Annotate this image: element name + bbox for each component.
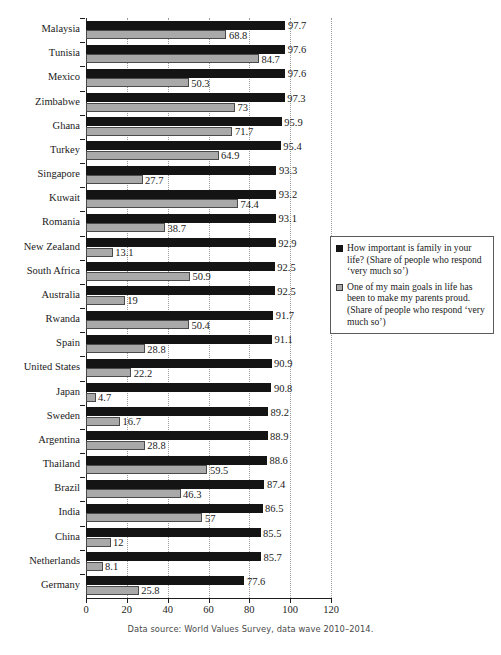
bar-series-0 [86,407,268,416]
category-tick [80,42,85,43]
category-tick [80,308,85,309]
category-tick [80,356,85,357]
bar-value-label: 73 [238,103,249,112]
x-tick-120 [331,598,332,603]
bar-series-0 [86,93,285,102]
x-tick-label-0: 0 [83,604,88,615]
bar-value-label: 88.9 [270,432,288,441]
category-label: Ghana [0,120,80,131]
bar-value-label: 87.4 [267,480,285,489]
bar-value-label: 50.3 [191,79,209,88]
bar-value-label: 85.7 [263,553,281,562]
chart-row: Tunisia97.684.7 [0,42,501,66]
category-label: Argentina [0,434,80,445]
bar-value-label: 92.5 [277,287,295,296]
category-label: Germany [0,579,80,590]
category-tick [80,163,85,164]
bar-series-0 [86,166,276,175]
chart-row: Turkey95.464.9 [0,139,501,163]
chart-row: India86.557 [0,501,501,525]
bar-value-label: 4.7 [98,393,111,402]
bar-value-label: 85.5 [263,529,281,538]
chart-row: United States90.922.2 [0,356,501,380]
bar-series-1 [86,175,143,184]
category-label: India [0,506,80,517]
category-label: Turkey [0,144,80,155]
legend-label-family: How important is family in your life? (S… [347,242,487,277]
bar-value-label: 97.6 [288,69,306,78]
bar-value-label: 22.2 [134,369,152,378]
category-label: China [0,531,80,542]
x-tick-label-80: 80 [244,604,255,615]
bar-value-label: 28.8 [147,441,165,450]
bar-value-label: 97.6 [288,45,306,54]
bar-value-label: 91.7 [276,311,294,320]
category-tick [80,550,85,551]
bar-value-label: 25.8 [141,586,159,595]
bar-series-0 [86,45,285,54]
x-tick-label-100: 100 [282,604,298,615]
chart-row: Mexico97.650.3 [0,66,501,90]
bar-series-0 [86,576,244,585]
x-tick-60 [209,598,210,603]
bar-value-label: 12 [113,538,124,547]
bar-series-0 [86,431,268,440]
bar-series-1 [86,296,125,305]
bar-chart-figure: Malaysia97.768.8Tunisia97.684.7Mexico97.… [0,0,501,655]
category-tick [80,332,85,333]
category-label: Rwanda [0,313,80,324]
chart-row: Thailand88.659.5 [0,453,501,477]
bar-value-label: 97.3 [287,94,305,103]
chart-row: Romania93.138.7 [0,211,501,235]
category-tick [80,405,85,406]
bar-series-0 [86,141,281,150]
category-tick [80,429,85,430]
legend-entry-parents-proud: One of my main goals in life has been to… [336,281,487,327]
bar-series-1 [86,417,120,426]
category-label: Tunisia [0,47,80,58]
bar-value-label: 77.6 [247,577,265,586]
category-label: Mexico [0,71,80,82]
bar-series-1 [86,465,207,474]
chart-row: Malaysia97.768.8 [0,18,501,42]
bar-value-label: 46.3 [183,490,201,499]
bar-value-label: 38.7 [168,224,186,233]
bar-series-0 [86,504,263,513]
category-label: Malaysia [0,23,80,34]
chart-row: Japan90.84.7 [0,381,501,405]
category-label: Kuwait [0,192,80,203]
category-label: Netherlands [0,555,80,566]
x-tick-label-40: 40 [162,604,173,615]
category-tick [80,187,85,188]
bar-value-label: 68.8 [229,31,247,40]
bar-value-label: 86.5 [265,504,283,513]
bar-value-label: 13.1 [115,248,133,257]
bar-value-label: 90.9 [274,359,292,368]
bar-value-label: 50.9 [192,272,210,281]
bar-series-0 [86,456,267,465]
category-tick [80,211,85,212]
category-tick [80,260,85,261]
bar-series-1 [86,513,202,522]
legend-swatch-black-square [336,245,343,252]
category-label: Sweden [0,410,80,421]
bar-value-label: 59.5 [210,466,228,475]
x-tick-label-120: 120 [323,604,339,615]
bar-series-0 [86,69,285,78]
x-tick-label-60: 60 [203,604,214,615]
bar-series-1 [86,344,145,353]
bar-series-1 [86,538,111,547]
bar-series-1 [86,78,189,87]
category-tick [80,115,85,116]
bar-value-label: 28.8 [147,345,165,354]
bar-series-0 [86,286,275,295]
category-label: Spain [0,337,80,348]
bar-series-0 [86,238,276,247]
chart-row: Ghana95.971.7 [0,115,501,139]
bar-series-1 [86,103,235,112]
bar-series-1 [86,54,259,63]
category-tick [80,381,85,382]
bar-series-1 [86,248,113,257]
chart-row: Argentina88.928.8 [0,429,501,453]
chart-row: Kuwait93.274.4 [0,187,501,211]
